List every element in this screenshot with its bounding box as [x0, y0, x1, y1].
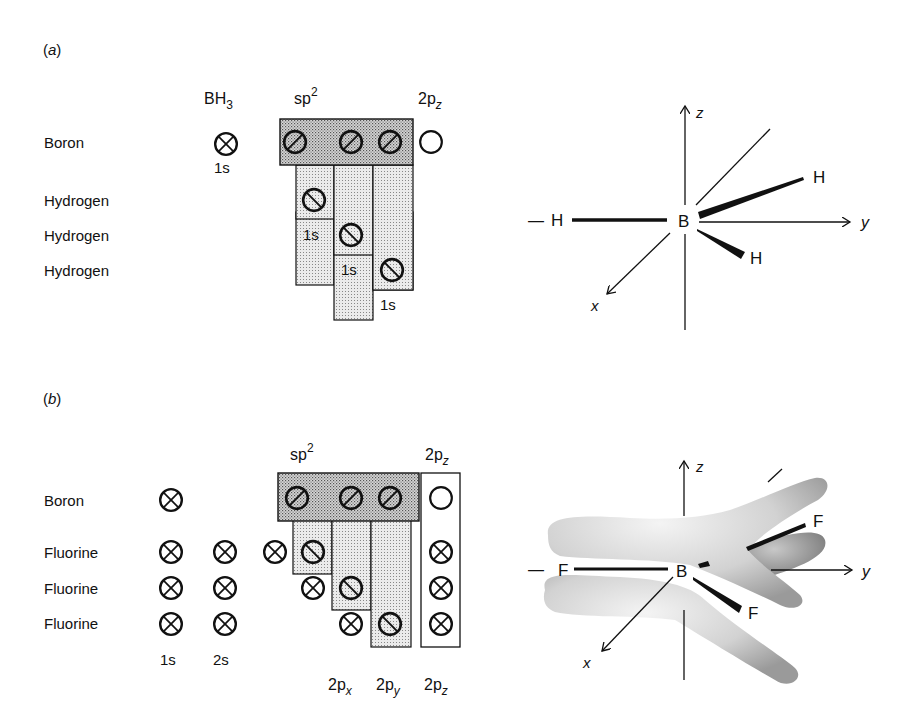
h2-1s-label: 1s: [341, 261, 357, 278]
f1-2px-lone-orbital-icon: [264, 541, 286, 563]
boron-1s-label: 1s: [214, 159, 230, 176]
f1-2s-orbital-icon: [214, 541, 236, 563]
column-label-2px: 2px: [328, 676, 353, 698]
atom-b-center: B: [678, 212, 689, 231]
atom-b-center: B: [676, 562, 687, 581]
h3-1s-label: 1s: [380, 296, 396, 313]
x-axis-label: x: [582, 654, 591, 671]
atom-h-left: H: [551, 211, 563, 230]
column-label-2py: 2py: [376, 676, 401, 698]
f2-2s-orbital-icon: [214, 577, 236, 599]
y-axis-label: y: [861, 563, 871, 580]
h1-1s-label: 1s: [303, 226, 319, 243]
column-label-2s: 2s: [213, 651, 229, 668]
panel-b: (b) sp2 2pz Boron Fluorine Fluorine Fluo…: [43, 390, 871, 698]
row-label-hydrogen-2: Hydrogen: [44, 227, 109, 244]
bh3-molecule: z y x — H B H H: [528, 104, 870, 330]
far-left-dash: —: [528, 561, 544, 578]
atom-f-lower-right: F: [748, 604, 758, 623]
2pz-column-box: [421, 473, 460, 647]
sp2-header: sp2: [294, 85, 318, 107]
bond-b-h-lower-wedge: [697, 229, 745, 259]
y-axis-label: y: [860, 214, 870, 231]
bh3-header: BH3: [204, 90, 233, 112]
atom-h-upper-right: H: [813, 168, 825, 187]
f1-1s-orbital-icon: [160, 541, 182, 563]
bond-box-h2-top: [334, 165, 373, 255]
row-label-hydrogen-3: Hydrogen: [44, 262, 109, 279]
bond-box-f1: [293, 520, 332, 574]
far-left-dash: —: [528, 212, 544, 229]
sp2-header: sp2: [290, 441, 314, 463]
panel-a: (a) BH3 sp2 2pz Boron Hydrogen Hydrogen …: [43, 41, 870, 330]
sp2-box: [280, 119, 413, 165]
bond-box-f2: [332, 520, 371, 610]
atom-h-lower-right: H: [750, 249, 762, 268]
atom-f-left: F: [558, 561, 568, 580]
z-axis-label: z: [695, 458, 704, 475]
orbital-diagram: (a) BH3 sp2 2pz Boron Hydrogen Hydrogen …: [0, 0, 903, 725]
atom-f-upper-right: F: [813, 512, 823, 531]
bond-box-h1: [296, 212, 334, 285]
x-axis-label: x: [590, 297, 599, 314]
row-label-fluorine-1: Fluorine: [44, 544, 98, 561]
boron-1s-orbital-icon: [160, 489, 182, 511]
f3-2s-orbital-icon: [214, 613, 236, 635]
2pz-empty-orbital-icon: [420, 131, 442, 153]
row-label-fluorine-2: Fluorine: [44, 580, 98, 597]
panel-b-label: (b): [43, 390, 61, 407]
boron-1s-orbital-icon: [215, 133, 237, 155]
2pz-header: 2pz: [425, 446, 449, 468]
z-axis-label: z: [695, 104, 704, 121]
f2-1s-orbital-icon: [160, 577, 182, 599]
panel-a-label: (a): [43, 41, 61, 58]
column-label-1s: 1s: [160, 651, 176, 668]
column-label-2pz: 2pz: [424, 676, 448, 698]
row-label-boron: Boron: [44, 492, 84, 509]
x-axis: [607, 233, 670, 294]
bf3-molecule: z y x — F B F F: [528, 458, 871, 684]
back-diagonal-tick: [768, 469, 782, 482]
2pz-header: 2pz: [418, 90, 442, 112]
f3-1s-orbital-icon: [160, 613, 182, 635]
row-label-fluorine-3: Fluorine: [44, 615, 98, 632]
f2-lone-orbital-icon: [302, 577, 324, 599]
bond-box-f3: [371, 520, 411, 647]
f3-lone-orbital-icon: [340, 613, 362, 635]
row-label-boron: Boron: [44, 134, 84, 151]
row-label-hydrogen-1: Hydrogen: [44, 192, 109, 209]
bond-b-h-upper-wedge: [698, 177, 804, 219]
